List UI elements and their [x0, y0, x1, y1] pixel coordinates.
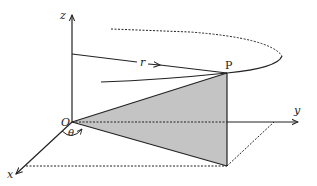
x-axis-label: x [7, 168, 14, 181]
shaded-triangle [72, 73, 227, 166]
circle-path-dashed [111, 29, 282, 56]
radius-label: r [140, 56, 146, 69]
radius-line-2 [160, 65, 227, 73]
y-axis-label: y [293, 104, 301, 117]
point-label: P [225, 59, 233, 72]
projection-y-dashed [227, 122, 274, 166]
radius-line [72, 54, 137, 62]
z-axis-label: z [59, 9, 66, 22]
diagram-canvas: z y x O θ r P [0, 0, 317, 186]
theta-label: θ [68, 127, 74, 138]
radius-arrow [148, 64, 160, 65]
